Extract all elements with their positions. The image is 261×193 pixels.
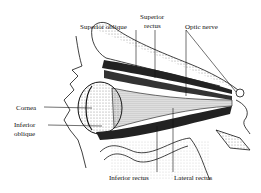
label-superior-oblique: Superior oblique xyxy=(80,23,127,31)
label-lateral-rectus: Lateral rectus xyxy=(174,174,212,182)
label-inferior-rectus: Inferior rectus xyxy=(109,174,149,182)
eye-muscle-diagram: Superior oblique Superior rectus Optic n… xyxy=(0,0,261,193)
label-optic-nerve: Optic nerve xyxy=(185,23,218,31)
label-superior-rectus-line1: Superior xyxy=(140,13,164,21)
label-cornea: Cornea xyxy=(16,104,36,112)
label-inferior-oblique-line2: oblique xyxy=(14,130,35,138)
label-inferior-oblique-line1: Inferior xyxy=(14,121,35,129)
label-superior-rectus-line2: rectus xyxy=(144,22,161,30)
eye-anatomy-illustration xyxy=(0,0,261,193)
